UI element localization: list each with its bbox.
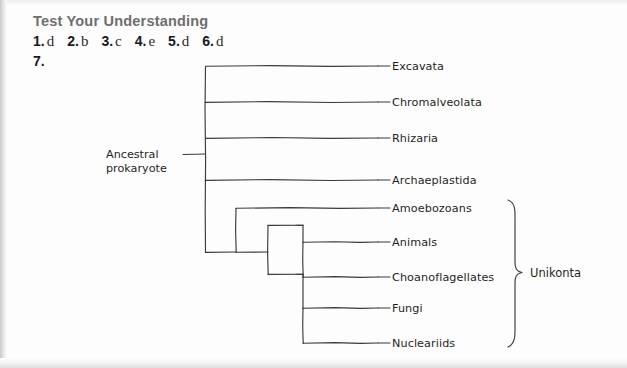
taxon-label-fungi: Fungi bbox=[392, 302, 423, 315]
taxon-label-chromalveolata: Chromalveolata bbox=[392, 96, 482, 109]
taxon-label-amoebozoans: Amoebozoans bbox=[392, 202, 472, 215]
branch-rhizaria bbox=[206, 138, 378, 139]
branch-fungi bbox=[303, 308, 378, 309]
node-holozoa-vertical bbox=[303, 242, 304, 277]
taxon-label-nucleariids: Nucleariids bbox=[392, 337, 455, 350]
node-holomycota-vertical bbox=[303, 308, 304, 343]
root-label-line1: Ancestral bbox=[106, 148, 159, 161]
branch-holomycota-connector bbox=[296, 274, 303, 308]
branch-holozoa-connector bbox=[296, 225, 303, 242]
branch-excavata bbox=[206, 66, 379, 67]
branch-nucleariids bbox=[303, 343, 378, 344]
branch-archaeplastida bbox=[205, 180, 378, 181]
phylogenetic-tree-diagram: Excavata Chromalveolata Rhizaria Archaep… bbox=[0, 0, 627, 368]
root-label-line2: prokaryote bbox=[106, 162, 167, 175]
node-unikonta-vertical bbox=[236, 208, 237, 252]
page-canvas: Test Your Understanding 1.d 2.b 3.c 4.e … bbox=[0, 0, 627, 368]
taxon-label-choanoflagellates: Choanoflagellates bbox=[392, 271, 494, 284]
taxon-label-excavata: Excavata bbox=[392, 60, 444, 73]
group-label-unikonta: Unikonta bbox=[530, 266, 581, 280]
backbone-vertical bbox=[205, 67, 206, 253]
unikonta-bracket bbox=[508, 200, 522, 347]
branch-animals bbox=[303, 242, 378, 243]
root-stem bbox=[183, 154, 206, 155]
taxon-label-animals: Animals bbox=[392, 236, 437, 249]
taxon-label-rhizaria: Rhizaria bbox=[392, 132, 438, 145]
branch-amoebozoans bbox=[236, 208, 378, 209]
taxon-label-archaeplastida: Archaeplastida bbox=[392, 174, 477, 187]
branch-chromalveolata bbox=[205, 102, 378, 103]
branch-choanoflagellates bbox=[303, 277, 378, 278]
node-opisthokonta-vertical bbox=[268, 225, 269, 274]
